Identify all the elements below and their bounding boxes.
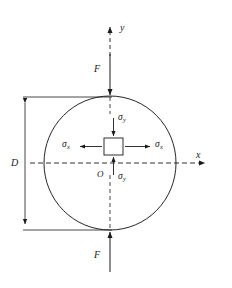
sigma-x-right-label: σx bbox=[155, 140, 163, 150]
bottom-force-label: F bbox=[94, 250, 100, 260]
sigma-y-bottom-label: σy bbox=[118, 172, 126, 182]
sigma-x-left-symbol: σ bbox=[62, 139, 67, 149]
y-axis-label: y bbox=[120, 23, 124, 33]
sigma-y-bottom-symbol: σ bbox=[118, 171, 123, 181]
sigma-y-top-symbol: σ bbox=[118, 112, 123, 122]
diagram-canvas bbox=[0, 0, 232, 288]
sigma-y-bottom-subscript: y bbox=[123, 175, 126, 182]
sigma-y-top-label: σy bbox=[118, 113, 126, 123]
sigma-x-right-subscript: x bbox=[160, 143, 163, 150]
origin-label: O bbox=[97, 170, 104, 179]
stress-element-square bbox=[104, 138, 123, 155]
sigma-x-left-subscript: x bbox=[67, 143, 70, 150]
x-axis-label: x bbox=[196, 150, 200, 160]
top-force-label: F bbox=[94, 64, 100, 74]
diameter-label: D bbox=[11, 158, 18, 168]
sigma-x-left-label: σx bbox=[62, 140, 70, 150]
sigma-y-top-subscript: y bbox=[123, 116, 126, 123]
sigma-x-right-symbol: σ bbox=[155, 139, 160, 149]
brazilian-disk-diagram: y x F F D O σy σy σx σx bbox=[0, 0, 232, 288]
diameter-dimension bbox=[23, 97, 112, 230]
